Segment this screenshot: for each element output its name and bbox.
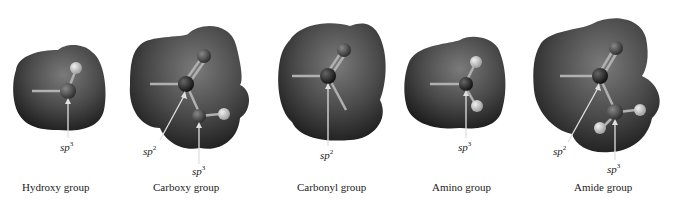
carboxy-sp3-label: sp3 [192,164,205,177]
amide-sp3-label: sp3 [607,162,620,175]
carbonyl-caption: Carbonyl group [297,181,366,193]
amino-caption: Amino group [432,181,491,193]
carbonyl-surface [278,23,385,146]
molecular-surfaces-diagram [0,0,680,205]
hydroxy-sp3-label: sp3 [60,140,73,153]
amide-sp2-label: sp2 [553,144,566,157]
amino-sp3-label: sp3 [458,140,471,153]
carboxy-caption: Carboxy group [153,181,219,193]
hydroxy-surface [13,45,105,138]
amino-surface [404,37,505,138]
amide-surface [533,18,659,160]
carbonyl-sp2-label: sp2 [320,148,333,161]
carboxy-sp2-label: sp2 [143,144,156,157]
hydroxy-caption: Hydroxy group [22,181,90,193]
amide-caption: Amide group [574,181,632,193]
